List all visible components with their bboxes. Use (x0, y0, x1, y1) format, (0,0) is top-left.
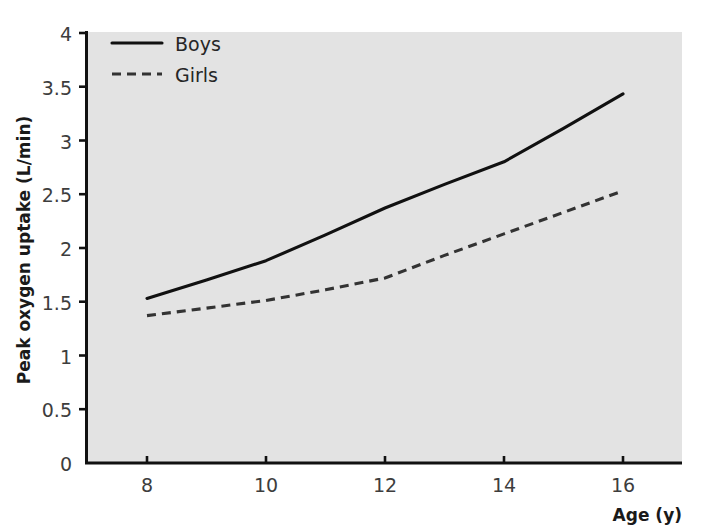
legend-label-boys: Boys (175, 33, 221, 55)
chart-figure: 4 3.5 3 2.5 2 1.5 1 0.5 0 8 10 12 14 16 … (0, 0, 704, 532)
legend-label-girls: Girls (175, 64, 218, 86)
y-axis-title: Peak oxygen uptake (L/min) (14, 116, 34, 385)
y-tick-label-2-5: 2.5 (42, 184, 72, 206)
y-tick-label-3-5: 3.5 (42, 77, 72, 99)
x-tick-label-16: 16 (611, 474, 635, 496)
x-axis-title: Age (y) (613, 505, 682, 525)
peak-oxygen-uptake-line-chart: 4 3.5 3 2.5 2 1.5 1 0.5 0 8 10 12 14 16 … (0, 0, 704, 532)
y-tick-label-4: 4 (60, 23, 72, 45)
x-tick-label-10: 10 (254, 474, 278, 496)
y-tick-label-1: 1 (60, 346, 72, 368)
y-tick-label-0: 0 (60, 453, 72, 475)
y-tick-label-1-5: 1.5 (42, 292, 72, 314)
plot-area-background (86, 32, 682, 463)
y-tick-label-3: 3 (60, 131, 72, 153)
y-tick-label-0-5: 0.5 (42, 399, 72, 421)
y-axis-ticks (79, 33, 86, 409)
y-tick-label-2: 2 (60, 238, 72, 260)
x-tick-label-12: 12 (373, 474, 397, 496)
x-tick-label-14: 14 (492, 474, 516, 496)
x-tick-label-8: 8 (141, 474, 153, 496)
